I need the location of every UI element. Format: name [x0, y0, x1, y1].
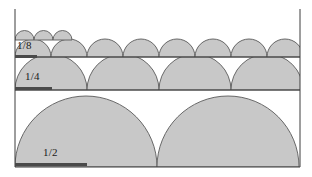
semicircle-tier-eighth-5	[159, 39, 195, 57]
semicircle-tier-quarter-2	[87, 54, 159, 90]
semicircle-row-tier-quarter	[15, 54, 303, 90]
semicircle-layers	[15, 31, 303, 168]
semicircle-row-tier-eighth	[15, 39, 303, 57]
semicircle-tier-sixteenth-3	[53, 31, 72, 40]
semicircle-tier-quarter-4	[231, 54, 303, 90]
clipped-semicircles	[15, 31, 303, 168]
semicircle-tier-eighth-7	[231, 39, 267, 57]
semicircle-tier-eighth-3	[87, 39, 123, 57]
scale-bar-half	[15, 163, 87, 166]
semicircle-tier-quarter-3	[159, 54, 231, 90]
semicircle-tier-half-2	[157, 96, 299, 167]
tier-label-quarter: 1/4	[25, 71, 40, 82]
semicircle-tier-half-1	[15, 96, 157, 167]
semicircle-tier-sixteenth-2	[34, 31, 53, 40]
tier-label-half: 1/2	[43, 147, 58, 158]
tier-label-eighth: 1/8	[17, 40, 32, 51]
semicircle-tier-eighth-8	[267, 39, 303, 57]
scale-bar-eighth	[15, 55, 37, 58]
scale-bar-quarter	[15, 87, 52, 90]
semicircle-tier-eighth-4	[123, 39, 159, 57]
semicircle-tier-eighth-6	[195, 39, 231, 57]
semicircle-series-figure: 1/8 1/4 1/2	[0, 0, 312, 177]
semicircle-tier-eighth-2	[51, 39, 87, 57]
